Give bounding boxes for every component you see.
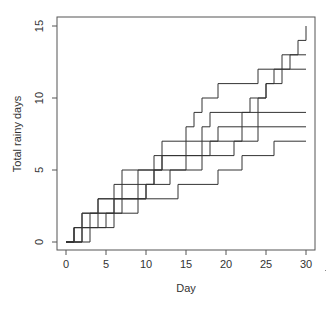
step-chart: 051015202530 051015 Day Total rainy days	[0, 0, 336, 310]
y-axis: 051015	[33, 20, 57, 245]
x-tick-label: 30	[300, 258, 312, 270]
x-tick-label: 0	[63, 258, 69, 270]
series-layer	[66, 26, 306, 242]
y-tick-label: 5	[33, 167, 45, 173]
x-tick-label: 20	[220, 258, 232, 270]
y-tick-label: 10	[33, 92, 45, 104]
x-axis: 051015202530	[63, 250, 312, 270]
x-tick-label: 10	[140, 258, 152, 270]
y-tick-label: 15	[33, 20, 45, 32]
step-series-1	[66, 26, 306, 242]
x-tick-label: 15	[180, 258, 192, 270]
x-axis-title: Day	[176, 282, 196, 294]
y-axis-title: Total rainy days	[11, 95, 23, 172]
stray-dot	[325, 270, 326, 271]
x-tick-label: 5	[103, 258, 109, 270]
x-tick-label: 25	[260, 258, 272, 270]
y-tick-label: 0	[33, 239, 45, 245]
step-series-2	[66, 55, 306, 242]
